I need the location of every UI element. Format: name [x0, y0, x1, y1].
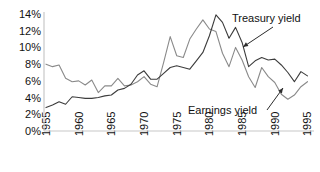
chart-background — [0, 0, 320, 172]
x-tick-label: 1965 — [105, 112, 117, 136]
treasury-yield-annotation-label: Treasury yield — [232, 12, 301, 24]
x-tick-label: 1995 — [301, 112, 313, 136]
y-tick-label: 12% — [19, 25, 41, 37]
x-tick-label: 1975 — [171, 112, 183, 136]
x-axis-tick-labels: 195519601965197019751980198519901995 — [40, 112, 313, 136]
y-tick-label: 0% — [25, 125, 41, 137]
chart-container: 0%2%4%6%8%10%12%14% 19551960196519701975… — [0, 0, 320, 172]
x-tick-label: 1990 — [269, 112, 281, 136]
y-tick-label: 4% — [25, 92, 41, 104]
yield-comparison-line-chart: 0%2%4%6%8%10%12%14% 19551960196519701975… — [0, 0, 320, 172]
earnings-yield-annotation-label: Earnings yield — [188, 104, 257, 116]
x-tick-label: 1970 — [138, 112, 150, 136]
x-tick-label: 1960 — [73, 112, 85, 136]
y-tick-label: 10% — [19, 41, 41, 53]
y-tick-label: 14% — [19, 8, 41, 20]
y-tick-label: 8% — [25, 58, 41, 70]
y-tick-label: 6% — [25, 75, 41, 87]
y-tick-label: 2% — [25, 108, 41, 120]
x-tick-label: 1955 — [40, 112, 52, 136]
